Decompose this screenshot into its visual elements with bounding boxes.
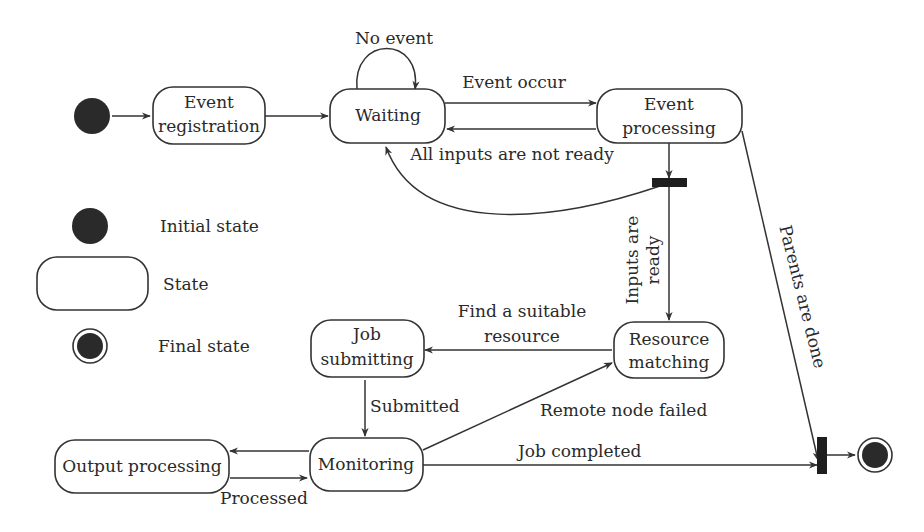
fork-bar	[652, 178, 687, 187]
label-inputs-not-ready: All inputs are not ready	[409, 144, 614, 164]
svg-text:registration: registration	[158, 116, 260, 136]
edge-waiting-self-loop	[357, 49, 416, 90]
label-no-event: No event	[355, 28, 433, 48]
legend: Initial state State Final state	[37, 208, 259, 363]
label-parents-done: Parents are done	[775, 223, 830, 370]
state-diagram: No event Event occur All inputs are not …	[0, 0, 924, 532]
label-processed: Processed	[220, 488, 308, 508]
label-inputs-ready-2: ready	[643, 235, 663, 284]
svg-text:Event: Event	[644, 94, 694, 114]
svg-text:Waiting: Waiting	[355, 105, 421, 125]
label-inputs-ready-1: Inputs are	[622, 216, 642, 305]
legend-initial-label: Initial state	[160, 216, 259, 236]
svg-text:Output processing: Output processing	[62, 456, 221, 476]
svg-text:processing: processing	[622, 118, 716, 138]
label-submitted: Submitted	[370, 396, 460, 416]
legend-final-symbol	[73, 329, 107, 363]
state-job-submitting: Job submitting	[311, 320, 424, 377]
initial-state-node	[74, 98, 110, 134]
svg-text:Event: Event	[184, 92, 234, 112]
state-monitoring: Monitoring	[310, 438, 423, 491]
legend-state-label: State	[163, 274, 209, 294]
label-find-resource-2: resource	[484, 326, 560, 346]
label-remote-failed: Remote node failed	[540, 400, 707, 420]
state-output-processing: Output processing	[55, 440, 229, 493]
state-waiting: Waiting	[330, 89, 445, 143]
legend-final-label: Final state	[158, 336, 250, 356]
state-resource-matching: Resource matching	[614, 322, 724, 378]
svg-text:submitting: submitting	[320, 349, 413, 369]
label-find-resource-1: Find a suitable	[458, 301, 586, 321]
state-event-processing: Event processing	[597, 89, 742, 143]
legend-initial-symbol	[72, 208, 108, 244]
state-event-registration: Event registration	[153, 87, 265, 144]
label-event-occur: Event occur	[462, 72, 566, 92]
svg-text:Resource: Resource	[629, 329, 709, 349]
svg-text:matching: matching	[629, 352, 710, 372]
join-bar	[817, 437, 827, 474]
svg-text:Monitoring: Monitoring	[318, 454, 415, 474]
svg-text:Job: Job	[351, 324, 381, 344]
label-job-completed: Job completed	[516, 441, 641, 461]
final-state-node	[858, 438, 892, 472]
legend-state-symbol	[37, 257, 148, 310]
